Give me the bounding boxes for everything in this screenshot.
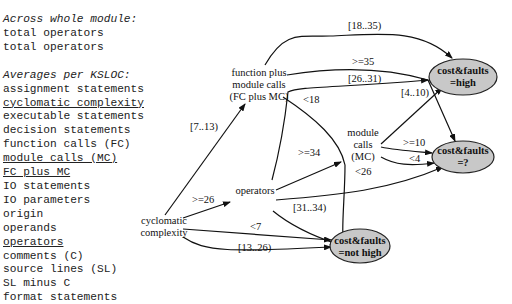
svg-text:cyclomatic: cyclomatic: [141, 215, 187, 226]
edge-label: [18..35): [348, 20, 382, 32]
leaf-not-high: cost&faults =not high: [330, 229, 390, 263]
leaf-unknown: cost&faults =?: [432, 141, 494, 173]
svg-text:(MC): (MC): [351, 151, 375, 163]
edge-label: [4..10): [401, 87, 429, 99]
edge-label: >=35: [352, 56, 374, 67]
edge-labels: [7..13) >=26 <7 [13..26) [18..35) >=35 <…: [190, 20, 429, 254]
svg-text:module calls: module calls: [232, 79, 285, 90]
edge-label: <7: [250, 221, 261, 232]
svg-text:(FC plus MC): (FC plus MC): [230, 91, 289, 103]
node-fc-plus-mc: function plus module calls (FC plus MC): [230, 67, 289, 103]
svg-text:function plus: function plus: [231, 67, 286, 78]
svg-text:cost&faults: cost&faults: [437, 65, 488, 76]
svg-text:operators: operators: [235, 185, 274, 196]
svg-text:cost&faults: cost&faults: [437, 145, 488, 156]
svg-text:complexity: complexity: [140, 227, 188, 238]
svg-text:module: module: [347, 127, 379, 138]
edge-label: <4: [409, 153, 421, 164]
svg-text:calls: calls: [353, 139, 372, 150]
svg-text:cost&faults: cost&faults: [334, 235, 385, 246]
edge-label: <26: [355, 166, 371, 177]
edge-label: >=10: [403, 137, 425, 148]
node-operators: operators: [235, 185, 274, 196]
svg-text:=?: =?: [457, 157, 468, 168]
edge-label: >=26: [192, 194, 214, 205]
svg-text:=high: =high: [450, 77, 476, 88]
edge-label: <18: [303, 94, 319, 105]
edge-ops-31-34: [273, 211, 337, 244]
edge-label: [13..26): [238, 242, 272, 254]
node-cyclomatic-complexity: cyclomatic complexity: [140, 215, 188, 238]
node-module-calls: module calls (MC): [347, 127, 379, 163]
edge-label: [31..34): [293, 202, 327, 214]
leaf-high: cost&faults =high: [429, 59, 497, 95]
edge-label: >=34: [298, 147, 321, 158]
edge-ops-mc: [276, 162, 341, 190]
svg-text:=not high: =not high: [338, 247, 381, 258]
edge-label: [26..31): [348, 73, 382, 85]
edge-label: [7..13): [190, 121, 218, 133]
edge-mc-lt4: [381, 157, 434, 165]
